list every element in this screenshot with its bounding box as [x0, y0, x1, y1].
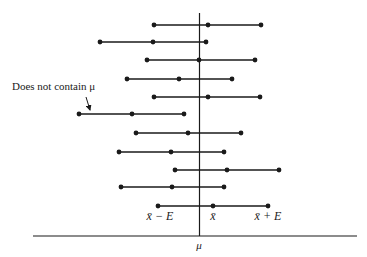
lower-endpoint-dot	[117, 150, 122, 155]
center-dot	[206, 23, 211, 28]
lower-endpoint-dot	[152, 95, 157, 100]
center-dot	[177, 77, 182, 82]
center-dot	[211, 204, 216, 209]
endpoint-labels: x̄ − E x̄ x̄ + E	[146, 209, 282, 223]
interval-2	[98, 40, 209, 45]
interval-5	[152, 95, 263, 100]
does-not-contain-mu-label: Does not contain μ	[12, 80, 95, 92]
center-dot	[186, 131, 191, 136]
upper-endpoint-dot	[239, 131, 244, 136]
sample-mean-label: x̄	[209, 209, 216, 223]
lower-bound-label: x̄ − E	[146, 209, 174, 223]
arrow-icon	[86, 97, 90, 110]
lower-endpoint-dot	[134, 131, 139, 136]
upper-endpoint-dot	[222, 150, 227, 155]
interval-8	[117, 150, 227, 155]
upper-endpoint-dot	[266, 204, 271, 209]
lower-endpoint-dot	[77, 112, 82, 117]
center-dot	[151, 40, 156, 45]
center-dot	[225, 168, 230, 173]
center-dot	[130, 112, 135, 117]
annotation: Does not contain μ	[12, 80, 95, 110]
upper-endpoint-dot	[277, 168, 282, 173]
upper-endpoint-dot	[259, 23, 264, 28]
mu-label: μ	[195, 239, 202, 251]
interval-7	[134, 131, 244, 136]
lower-endpoint-dot	[173, 168, 178, 173]
confidence-interval-diagram: x̄ − E x̄ x̄ + E Does not contain μ μ	[0, 0, 367, 257]
upper-endpoint-dot	[230, 77, 235, 82]
center-dot	[169, 150, 174, 155]
interval-4	[125, 77, 235, 82]
lower-endpoint-dot	[125, 77, 130, 82]
upper-endpoint-dot	[182, 112, 187, 117]
interval-10	[119, 185, 227, 190]
lower-endpoint-dot	[145, 58, 150, 63]
interval-1	[152, 23, 264, 28]
upper-endpoint-dot	[258, 95, 263, 100]
lower-endpoint-dot	[98, 40, 103, 45]
lower-endpoint-dot	[152, 23, 157, 28]
upper-endpoint-dot	[204, 40, 209, 45]
diagram-canvas: x̄ − E x̄ x̄ + E Does not contain μ μ	[0, 0, 367, 257]
intervals	[77, 23, 282, 209]
interval-6	[77, 112, 187, 117]
center-dot	[206, 95, 211, 100]
upper-endpoint-dot	[253, 58, 258, 63]
interval-3	[145, 58, 258, 63]
lower-endpoint-dot	[119, 185, 124, 190]
center-dot	[197, 58, 202, 63]
interval-9	[173, 168, 282, 173]
lower-endpoint-dot	[156, 204, 161, 209]
upper-bound-label: x̄ + E	[254, 209, 282, 223]
center-dot	[170, 185, 175, 190]
upper-endpoint-dot	[222, 185, 227, 190]
interval-11	[156, 204, 271, 209]
